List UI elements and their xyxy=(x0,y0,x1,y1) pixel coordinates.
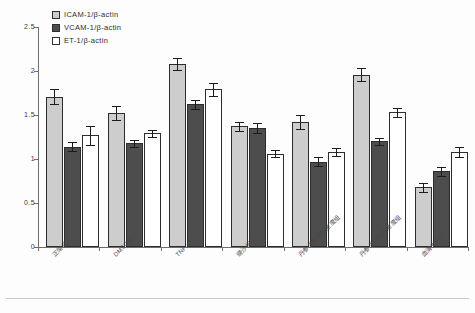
error-bar-cap xyxy=(437,176,446,177)
error-bar-cap xyxy=(173,58,182,59)
bar xyxy=(353,75,370,247)
error-bar xyxy=(379,138,380,145)
error-bar-cap xyxy=(191,100,200,101)
error-bar-cap xyxy=(455,157,464,158)
bar xyxy=(126,143,143,247)
y-tick-label: 2 xyxy=(5,67,35,74)
bar xyxy=(205,89,222,247)
error-bar xyxy=(134,140,135,147)
error-bar xyxy=(239,122,240,131)
error-bar-cap xyxy=(332,156,341,157)
x-tick xyxy=(222,247,223,251)
bar-group xyxy=(108,27,161,247)
error-bar-cap xyxy=(86,145,95,146)
bar xyxy=(169,64,186,247)
error-bar xyxy=(152,130,153,137)
error-bar-cap xyxy=(332,148,341,149)
bar xyxy=(231,126,248,247)
error-bar xyxy=(195,100,196,109)
error-bar-cap xyxy=(173,70,182,71)
error-bar xyxy=(257,123,258,134)
error-bar-cap xyxy=(419,183,428,184)
error-bar-cap xyxy=(209,83,218,84)
error-bar xyxy=(397,108,398,117)
error-bar xyxy=(361,68,362,80)
bar xyxy=(82,135,99,247)
error-bar-cap xyxy=(357,68,366,69)
error-bar-cap xyxy=(357,81,366,82)
bar xyxy=(108,113,125,247)
error-bar xyxy=(90,126,91,145)
error-bar-cap xyxy=(271,157,280,158)
error-bar-cap xyxy=(86,126,95,127)
plot-area xyxy=(38,27,468,247)
error-bar-cap xyxy=(148,137,157,138)
error-bar xyxy=(318,157,319,166)
error-bar-cap xyxy=(130,147,139,148)
error-bar-cap xyxy=(112,106,121,107)
error-bar-cap xyxy=(68,151,77,152)
bar xyxy=(144,133,161,247)
error-bar xyxy=(441,167,442,176)
bar-group xyxy=(231,27,284,247)
bar xyxy=(292,122,309,247)
error-bar-cap xyxy=(314,157,323,158)
bar xyxy=(328,152,345,247)
error-bar-cap xyxy=(296,129,305,130)
bar-chart-figure: ICAM-1/β-actin VCAM-1/β-actin ET-1/β-act… xyxy=(0,0,475,313)
error-bar-cap xyxy=(235,122,244,123)
error-bar-cap xyxy=(253,133,262,134)
y-tick-label: 0.5 xyxy=(5,199,35,206)
error-bar-cap xyxy=(393,108,402,109)
error-bar-cap xyxy=(68,142,77,143)
error-bar xyxy=(54,89,55,103)
x-axis-line xyxy=(38,247,468,248)
error-bar-cap xyxy=(50,104,59,105)
error-bar-cap xyxy=(375,145,384,146)
error-bar-cap xyxy=(437,167,446,168)
x-tick xyxy=(468,247,469,251)
error-bar-cap xyxy=(235,131,244,132)
error-bar-cap xyxy=(375,138,384,139)
error-bar-cap xyxy=(393,117,402,118)
y-tick-label: 2.5 xyxy=(5,23,35,30)
x-tick xyxy=(407,247,408,251)
error-bar xyxy=(116,106,117,120)
legend-label-icam1: ICAM-1/β-actin xyxy=(64,10,118,19)
error-bar-cap xyxy=(50,89,59,90)
error-bar-cap xyxy=(253,123,262,124)
legend-swatch-icam1 xyxy=(52,11,60,19)
error-bar xyxy=(213,83,214,95)
bar-group xyxy=(415,27,468,247)
error-bar-cap xyxy=(209,96,218,97)
error-bar xyxy=(459,147,460,158)
error-bar-cap xyxy=(455,147,464,148)
error-bar-cap xyxy=(314,166,323,167)
bar xyxy=(415,187,432,247)
error-bar xyxy=(300,115,301,129)
error-bar xyxy=(336,148,337,157)
error-bar xyxy=(423,183,424,192)
bar xyxy=(267,154,284,247)
bar-group xyxy=(46,27,99,247)
bar-group xyxy=(169,27,222,247)
error-bar-cap xyxy=(271,150,280,151)
x-tick xyxy=(161,247,162,251)
error-bar xyxy=(275,150,276,157)
error-bar-cap xyxy=(148,130,157,131)
bar xyxy=(46,97,63,247)
y-tick-label: 1.5 xyxy=(5,111,35,118)
error-bar-cap xyxy=(112,120,121,121)
error-bar-cap xyxy=(191,109,200,110)
bar xyxy=(187,104,204,247)
y-tick-label: 0 xyxy=(5,243,35,250)
legend-item-icam1: ICAM-1/β-actin xyxy=(52,8,121,21)
x-tick xyxy=(99,247,100,251)
bar xyxy=(64,147,81,247)
bar xyxy=(451,152,468,247)
bar xyxy=(249,128,266,247)
error-bar-cap xyxy=(130,140,139,141)
y-tick-label: 1 xyxy=(5,155,35,162)
footer-divider xyxy=(6,298,469,299)
error-bar xyxy=(177,58,178,70)
